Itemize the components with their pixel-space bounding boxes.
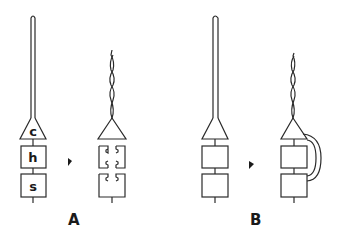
right-arrow-icon [68, 158, 72, 166]
lower-segment [281, 174, 307, 197]
notched-box-upper [99, 146, 125, 168]
lower-segment [202, 174, 228, 197]
upper-segment [202, 146, 228, 168]
diagram-canvas [0, 0, 337, 236]
panel-label-a: A [68, 213, 80, 228]
segment-label-h: h [20, 151, 46, 164]
upper-segment [281, 146, 307, 168]
segment-label-s: s [20, 180, 46, 193]
cone-segment [202, 118, 228, 139]
stalk [213, 16, 218, 118]
notched-box-lower [99, 174, 125, 197]
panel-a-cleaved-molecule [98, 50, 126, 203]
right-arrow-icon [249, 161, 254, 169]
segment-label-c: c [20, 125, 46, 138]
panel-b-intact-molecule [202, 16, 228, 203]
stalk [31, 16, 35, 118]
panel-a-intact-molecule [20, 16, 46, 203]
cone-segment [281, 118, 307, 139]
panel-b-bridged-molecule [281, 53, 321, 203]
panel-label-b: B [250, 213, 261, 228]
cone-segment [98, 118, 126, 139]
